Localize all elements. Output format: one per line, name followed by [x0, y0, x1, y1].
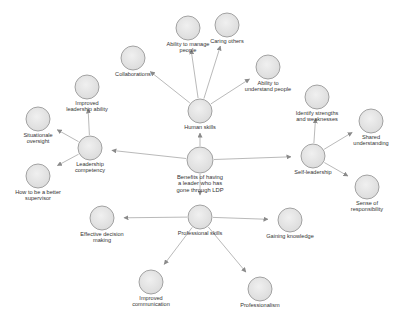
node-label-understand: Ability to understand people: [233, 80, 303, 93]
node-label-decision: Effective decision making: [67, 231, 137, 244]
node-label-human: Human skills: [165, 124, 235, 130]
node-label-selflead: Self-leadership: [278, 169, 348, 175]
node-label-knowledge: Gaining knowledge: [255, 233, 325, 239]
node-responsibility[interactable]: [355, 175, 379, 199]
node-manage[interactable]: [176, 16, 200, 40]
node-improvedlead[interactable]: [75, 75, 99, 99]
node-understand[interactable]: [256, 55, 280, 79]
node-situational[interactable]: [26, 107, 50, 131]
node-collab[interactable]: [121, 46, 145, 70]
node-human[interactable]: [188, 99, 212, 123]
node-label-collab: Collaborations: [98, 71, 168, 77]
node-label-caring: Caring others: [192, 38, 262, 44]
node-label-leadcomp: Leadership competency: [55, 161, 125, 174]
edge-human-to-caring: [204, 46, 221, 99]
edge-prof-to-decision: [124, 217, 187, 218]
node-label-supervisor: How to be a better supervisor: [3, 189, 73, 202]
edge-center-to-selflead: [214, 157, 291, 160]
node-supervisor[interactable]: [26, 164, 50, 188]
node-label-center: Benefits of having a leader who has gone…: [165, 174, 235, 193]
node-label-responsibility: Sense of responsibility: [332, 200, 402, 213]
edge-leadcomp-to-improvedlead: [88, 109, 89, 135]
edge-human-to-manage: [191, 50, 198, 98]
node-label-prof: Professional skills: [165, 230, 235, 236]
node-strengths[interactable]: [305, 85, 329, 109]
node-label-strengths: Identify strengths and weaknesses: [282, 110, 352, 123]
edge-center-to-leadcomp: [112, 150, 186, 158]
node-center[interactable]: [187, 147, 213, 173]
node-label-improvedlead: Improved leadership ability: [52, 100, 122, 113]
node-knowledge[interactable]: [278, 208, 302, 232]
node-label-shared: Shared understanding: [336, 134, 406, 147]
node-prof[interactable]: [188, 205, 212, 229]
node-leadcomp[interactable]: [78, 136, 102, 160]
node-selflead[interactable]: [301, 144, 325, 168]
node-label-communication: Improved communication: [116, 295, 186, 308]
edge-prof-to-knowledge: [213, 217, 268, 219]
node-decision[interactable]: [90, 206, 114, 230]
node-shared[interactable]: [359, 109, 383, 133]
nodes-layer: [26, 13, 383, 301]
node-communication[interactable]: [139, 270, 163, 294]
node-label-situational: Situationale oversight: [3, 132, 73, 145]
node-label-professionalism: Professionalism: [225, 302, 295, 308]
node-professionalism[interactable]: [248, 277, 272, 301]
node-caring[interactable]: [215, 13, 239, 37]
